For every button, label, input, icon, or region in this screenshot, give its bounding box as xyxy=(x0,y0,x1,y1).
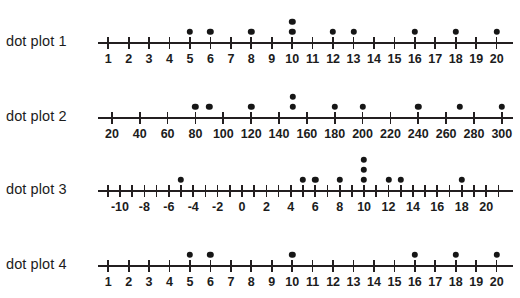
data-dot xyxy=(412,29,418,35)
data-dot xyxy=(412,252,418,258)
axis-tick xyxy=(373,37,375,49)
data-dot xyxy=(361,177,367,183)
axis-tick-label: 16 xyxy=(408,275,422,289)
axis-tick xyxy=(414,260,416,272)
axis-tick xyxy=(412,185,414,197)
axis-tick xyxy=(241,185,243,197)
axis-tick xyxy=(473,185,475,197)
axis-area: 1234567891011121314151617181920 xyxy=(0,12,520,82)
axis-tick xyxy=(353,260,355,272)
axis-tick xyxy=(375,185,377,197)
axis-tick xyxy=(128,37,130,49)
axis-tick-label: 13 xyxy=(347,275,361,289)
axis-tick xyxy=(455,37,457,49)
axis-tick xyxy=(253,185,255,197)
axis-tick xyxy=(436,185,438,197)
axis-tick xyxy=(390,112,392,124)
data-dot xyxy=(207,29,213,35)
axis-tick-label: 5 xyxy=(187,52,194,66)
axis-tick xyxy=(434,260,436,272)
axis-tick xyxy=(334,112,336,124)
axis-tick xyxy=(475,37,477,49)
axis-tick-label: 140 xyxy=(269,127,290,141)
data-dot xyxy=(289,19,295,25)
axis-tick xyxy=(302,185,304,197)
axis-tick-label: -6 xyxy=(163,200,174,214)
axis-tick xyxy=(271,260,273,272)
axis-tick-label: 4 xyxy=(287,200,294,214)
axis-tick xyxy=(107,37,109,49)
axis-tick-label: 6 xyxy=(312,200,319,214)
axis-tick xyxy=(473,112,475,124)
axis-tick xyxy=(128,260,130,272)
axis-tick-label: 100 xyxy=(213,127,234,141)
data-dot xyxy=(453,29,459,35)
axis-tick xyxy=(353,37,355,49)
axis-tick-label: 15 xyxy=(387,52,401,66)
axis-tick-label: 80 xyxy=(189,127,203,141)
axis-tick-label: -2 xyxy=(212,200,223,214)
axis-tick-label: 20 xyxy=(490,275,504,289)
data-dot xyxy=(361,167,367,173)
axis-tick xyxy=(314,185,316,197)
axis-tick xyxy=(156,185,158,197)
axis-tick-label: 19 xyxy=(469,275,483,289)
data-dot xyxy=(415,104,421,110)
axis-tick xyxy=(417,112,419,124)
data-dot xyxy=(300,177,306,183)
data-dot xyxy=(187,29,193,35)
axis-tick-label: 9 xyxy=(268,52,275,66)
axis-tick-label: 16 xyxy=(408,52,422,66)
dot-plot-2: dot plot 2204060801001201401601802002202… xyxy=(0,87,520,157)
axis-tick xyxy=(455,260,457,272)
axis-tick xyxy=(250,260,252,272)
axis-tick-label: 3 xyxy=(146,52,153,66)
axis-tick xyxy=(496,37,498,49)
axis-tick xyxy=(222,112,224,124)
axis-tick-label: 18 xyxy=(455,200,469,214)
axis-tick xyxy=(168,185,170,197)
data-dot xyxy=(206,104,212,110)
axis-tick-label: 1 xyxy=(105,52,112,66)
axis-tick-label: 12 xyxy=(382,200,396,214)
axis-tick xyxy=(388,185,390,197)
axis-tick xyxy=(363,185,365,197)
axis-tick-label: 200 xyxy=(352,127,373,141)
axis-tick xyxy=(332,260,334,272)
data-dot xyxy=(499,104,505,110)
axis-tick xyxy=(290,185,292,197)
axis-tick-label: 2 xyxy=(263,200,270,214)
axis-tick xyxy=(351,185,353,197)
data-dot xyxy=(493,252,499,258)
axis-tick-label: 2 xyxy=(125,275,132,289)
axis-tick-label: 40 xyxy=(133,127,147,141)
axis-tick-label: -10 xyxy=(111,200,129,214)
axis-tick-label: 5 xyxy=(187,275,194,289)
axis-tick xyxy=(210,37,212,49)
axis-tick xyxy=(362,112,364,124)
axis-tick-label: 16 xyxy=(430,200,444,214)
axis-tick-label: 18 xyxy=(449,275,463,289)
data-dot xyxy=(178,177,184,183)
axis-tick xyxy=(167,112,169,124)
axis-tick xyxy=(312,37,314,49)
axis-tick xyxy=(373,260,375,272)
axis-tick xyxy=(400,185,402,197)
axis-area: 1234567891011121314151617181920 xyxy=(0,235,520,298)
number-line-axis xyxy=(98,42,513,44)
axis-tick xyxy=(107,185,109,197)
data-dot xyxy=(290,104,296,110)
axis-tick-label: 4 xyxy=(166,275,173,289)
axis-tick xyxy=(229,185,231,197)
data-dot xyxy=(336,177,342,183)
axis-tick-label: 11 xyxy=(306,275,319,289)
axis-tick-label: 0 xyxy=(239,200,246,214)
axis-tick xyxy=(180,185,182,197)
data-dot xyxy=(459,177,465,183)
axis-tick xyxy=(119,185,121,197)
axis-tick xyxy=(271,37,273,49)
axis-tick xyxy=(189,37,191,49)
number-line-axis xyxy=(98,190,513,192)
axis-tick xyxy=(266,185,268,197)
axis-tick-label: 60 xyxy=(161,127,175,141)
